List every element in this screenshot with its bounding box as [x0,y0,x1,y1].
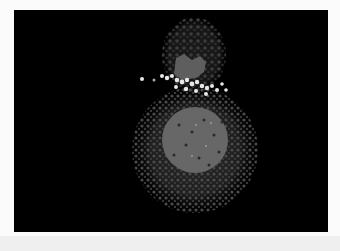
specimen-graphic [14,10,328,232]
bottom-strip [0,236,340,251]
inner-disk [162,107,228,173]
microscopy-image-panel [14,10,328,232]
lower-body [124,80,269,225]
